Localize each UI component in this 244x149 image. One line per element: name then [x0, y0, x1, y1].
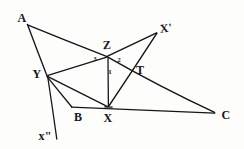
segment-B-C [72, 107, 215, 113]
segment-A-T-C [28, 25, 215, 113]
angle-label-1: 1 [108, 69, 112, 76]
point-label-z: Z [103, 39, 112, 51]
point-label-x-prime: X' [159, 21, 173, 34]
point-label-c: C [222, 109, 231, 121]
point-label-x: X [104, 112, 113, 124]
point-label-x-double-prime: x" [38, 130, 51, 142]
segment-Y-Z [47, 57, 107, 75]
segment-Y-B [47, 77, 72, 107]
angle-label-2: 2 [117, 57, 121, 64]
point-label-b: B [74, 111, 82, 123]
segment-Y-X [47, 76, 107, 106]
point-label-y: Y [33, 68, 42, 80]
geometry-figure: A X' Z Y T B X C x" 1 2 3 [0, 0, 244, 149]
angle-label-3: 3 [93, 56, 97, 63]
point-label-a: A [18, 12, 27, 24]
point-label-t: T [136, 64, 144, 76]
